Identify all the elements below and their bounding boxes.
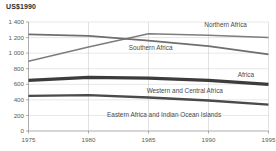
x-tick-label: 1990 [202,136,216,143]
y-tick-label: 1 400 [9,18,25,25]
x-tick-label: 1975 [22,136,36,143]
x-tick-label: 1995 [262,136,276,143]
x-axis-ticks [29,131,269,134]
series-label: Western and Central Africa [147,87,224,94]
series-label: Northern Africa [204,21,247,28]
line-chart: US$1990 02004006008001 0001 2001 400 197… [0,0,276,151]
series-label: Southern Africa [129,44,173,51]
y-tick-label: 0 [21,127,25,134]
plot-area: 02004006008001 0001 2001 400 19751980198… [0,0,276,151]
y-axis-ticks [26,22,29,131]
y-tick-label: 200 [14,112,25,119]
series-label: Eastern Africa and Indian Ocean Islands [107,111,221,118]
y-tick-label: 800 [14,65,25,72]
y-tick-label: 1 000 [9,49,25,56]
x-tick-label: 1985 [142,136,156,143]
y-axis-tick-labels: 02004006008001 0001 2001 400 [9,18,25,134]
y-tick-label: 1 200 [9,34,25,41]
series-label: Africa [238,71,255,78]
y-tick-label: 600 [14,80,25,87]
y-tick-label: 400 [14,96,25,103]
x-tick-label: 1980 [82,136,96,143]
x-axis-tick-labels: 19751980198519901995 [22,136,276,143]
